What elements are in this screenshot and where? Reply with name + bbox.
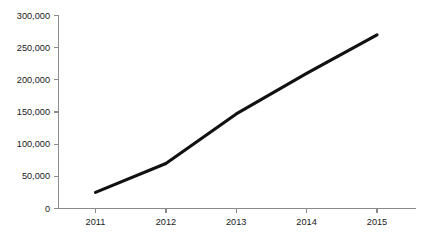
x-tick-label-2012: 2012 <box>156 217 176 227</box>
y-tick-label-50000: 50,000 <box>22 171 50 181</box>
x-tick-label-2015: 2015 <box>367 217 387 227</box>
y-tick-label-250000: 250,000 <box>17 43 50 53</box>
x-tick-label-2013: 2013 <box>226 217 246 227</box>
y-tick-label-300000: 300,000 <box>17 11 50 21</box>
y-tick-label-0: 0 <box>45 204 50 214</box>
chart-canvas: 0 50,000 100,000 150,000 200,000 250,000… <box>0 0 422 239</box>
y-tick-label-200000: 200,000 <box>17 75 50 85</box>
line-chart: 0 50,000 100,000 150,000 200,000 250,000… <box>0 0 422 239</box>
x-tick-label-2014: 2014 <box>296 217 316 227</box>
y-tick-label-100000: 100,000 <box>17 139 50 149</box>
y-tick-label-150000: 150,000 <box>17 107 50 117</box>
chart-background <box>0 0 422 239</box>
x-tick-label-2011: 2011 <box>86 217 106 227</box>
